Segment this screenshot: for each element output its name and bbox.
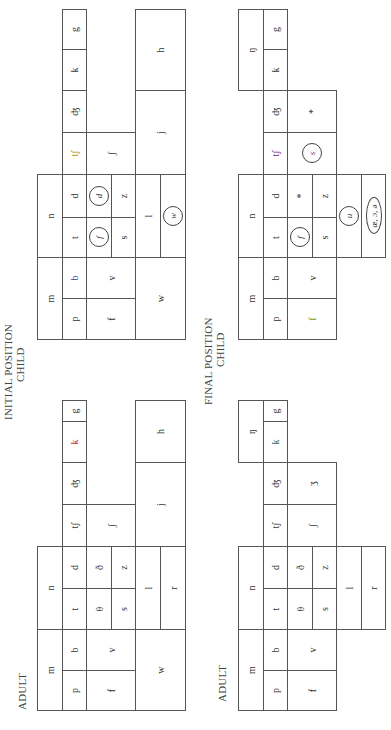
cell-dzh: ʤ [263, 90, 288, 133]
cell-s: s [111, 588, 136, 630]
cell-l: l [135, 174, 161, 258]
cell-f: f [86, 298, 136, 340]
cell-z: z [111, 174, 136, 218]
cell-h: h [135, 9, 186, 91]
cell-sh: ʃ [287, 504, 337, 547]
cell-n: n [37, 546, 63, 630]
initial-position-title: INITIAL POSITION [2, 324, 14, 420]
cell-eth: d [86, 174, 112, 218]
circled-substitution: s [302, 144, 322, 164]
cell-r: r [361, 546, 386, 630]
final-position-title: FINAL POSITION [202, 317, 214, 405]
cell-f: f [287, 298, 337, 340]
cell-v: v [86, 257, 136, 299]
cell-j: j [135, 90, 186, 175]
cell-dzh: ʤ [263, 462, 288, 505]
cell-k: k [62, 421, 87, 463]
cell-eth: ð [287, 546, 313, 589]
cell-d: d [263, 174, 288, 218]
cell-k: k [263, 49, 288, 91]
cell-n: n [37, 174, 63, 258]
final-adult-label: ADULT [216, 665, 228, 702]
cell-h: h [135, 400, 186, 463]
cell-g: g [263, 9, 288, 50]
cell-g: g [62, 400, 87, 422]
page: INITIAL POSITION CHILD ADULT FINAL POSIT… [0, 0, 391, 730]
circled-substitution: f [290, 228, 310, 248]
cell-tsh: tʃ [263, 504, 288, 547]
cell-w: w [135, 629, 186, 711]
cell-s: s [312, 588, 337, 630]
circled-substitution: w [163, 206, 183, 226]
cell-theta: θ [86, 588, 112, 630]
cell-b: b [263, 629, 288, 671]
final-child-label: CHILD [214, 332, 226, 367]
cell-zh: * [287, 90, 337, 133]
cell-eth: ð [86, 546, 112, 589]
cell-l: u [336, 174, 362, 258]
initial-adult-label: ADULT [16, 673, 28, 710]
cell-tsh: tʃ [62, 504, 87, 547]
cell-f: f [287, 670, 337, 711]
cell-v: v [86, 629, 136, 671]
cell-tsh: tʃ [62, 132, 87, 175]
cell-g: g [263, 400, 288, 422]
cell-b: b [62, 257, 87, 299]
cell-b: b [263, 257, 288, 299]
cell-g: g [62, 9, 87, 50]
cell-m: m [37, 629, 63, 711]
cell-b: b [62, 629, 87, 671]
cell-ng: ŋ [238, 400, 264, 463]
cell-t: t [62, 217, 87, 258]
cell-p: p [62, 670, 87, 711]
circled-substitution: d [89, 186, 109, 206]
cell-dzh: ʤ [62, 462, 87, 505]
cell-w: w [135, 257, 186, 340]
cell-k: k [263, 421, 288, 463]
cell-v: v [287, 257, 337, 299]
cell-d: d [62, 546, 87, 589]
cell-p: p [263, 298, 288, 340]
cell-ng: ŋ [238, 9, 264, 91]
cell-z: z [111, 546, 136, 589]
ellipsed-vowel-substitution: æ, ɔ, ə [366, 198, 382, 235]
cell-l: l [135, 546, 161, 630]
cell-sh: ʃ [86, 132, 136, 175]
cell-n: n [238, 174, 264, 258]
cell-theta: θ [287, 588, 313, 630]
cell-d: d [263, 546, 288, 589]
cell-z: z [312, 174, 337, 218]
cell-n: n [238, 546, 264, 630]
cell-t: t [263, 217, 288, 258]
cell-theta: f [86, 217, 112, 258]
cell-tsh: tʃ [263, 132, 288, 175]
cell-sh: ʃ [86, 504, 136, 547]
cell-t: t [62, 588, 87, 630]
cell-s: s [312, 217, 337, 258]
cell-p: p [62, 298, 87, 340]
cell-v: v [287, 629, 337, 671]
cell-eth: * [287, 174, 313, 218]
circled-substitution: f [89, 228, 109, 248]
cell-theta: f [287, 217, 313, 258]
initial-child-label: CHILD [14, 347, 26, 382]
cell-p: p [263, 670, 288, 711]
cell-sh: s [287, 132, 337, 175]
circled-substitution: u [339, 206, 359, 226]
cell-j: j [135, 462, 186, 547]
cell-m: m [37, 257, 63, 340]
cell-zh: ʒ [287, 462, 337, 505]
cell-l: l [336, 546, 362, 630]
cell-dzh: ʤ [62, 90, 87, 133]
cell-r: w [160, 174, 186, 258]
cell-s: s [111, 217, 136, 258]
cell-m: m [238, 257, 264, 340]
cell-k: k [62, 49, 87, 91]
cell-f: f [86, 670, 136, 711]
cell-r: æ, ɔ, ə [361, 174, 386, 258]
cell-t: t [263, 588, 288, 630]
cell-r: r [160, 546, 186, 630]
cell-z: z [312, 546, 337, 589]
cell-d: d [62, 174, 87, 218]
cell-m: m [238, 629, 264, 711]
